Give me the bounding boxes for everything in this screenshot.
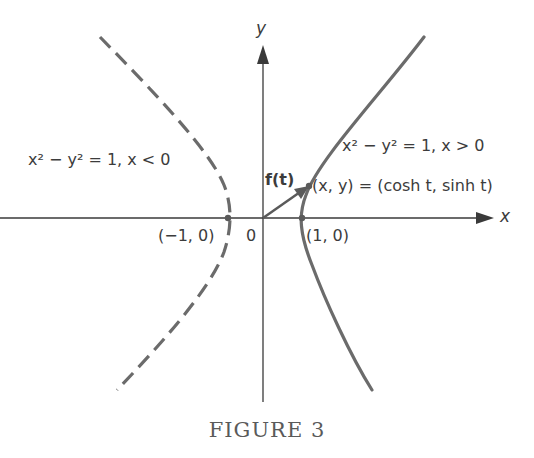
point-left-vertex bbox=[225, 215, 231, 221]
point-label: (x, y) = (cosh t, sinh t) bbox=[312, 178, 493, 194]
point-right-vertex bbox=[299, 215, 305, 221]
right-vertex-label: (1, 0) bbox=[306, 228, 349, 244]
x-axis-arrow-icon bbox=[476, 212, 494, 224]
y-axis-label: y bbox=[256, 20, 266, 37]
right-branch-equation: x² − y² = 1, x > 0 bbox=[342, 138, 485, 154]
left-branch-curve bbox=[100, 37, 230, 390]
vector-f-t bbox=[263, 190, 303, 218]
x-axis-label: x bbox=[500, 208, 510, 225]
right-branch-curve bbox=[301, 37, 424, 390]
left-branch-equation: x² − y² = 1, x < 0 bbox=[28, 152, 171, 168]
vector-label: f(t) bbox=[265, 172, 294, 188]
origin-label: 0 bbox=[246, 228, 256, 244]
hyperbola-diagram bbox=[0, 0, 534, 458]
left-vertex-label: (−1, 0) bbox=[158, 228, 214, 244]
y-axis-arrow-icon bbox=[257, 45, 269, 64]
figure-caption: FIGURE 3 bbox=[0, 418, 534, 442]
